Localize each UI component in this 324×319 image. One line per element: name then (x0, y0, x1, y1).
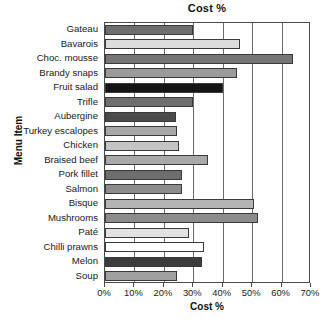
y-axis-tick-label: Choc. mousse (0, 53, 98, 63)
plot-area (104, 22, 310, 283)
bar-row (105, 255, 311, 269)
bar-row (105, 197, 311, 211)
x-axis-tick-label: 70% (290, 287, 324, 298)
y-axis-tick-label: Chicken (0, 140, 98, 150)
bar[interactable] (105, 141, 179, 151)
y-axis-tick-label: Bisque (0, 198, 98, 208)
bar-row (105, 81, 311, 95)
bar[interactable] (105, 83, 223, 93)
x-axis-title: Cost % (104, 301, 310, 312)
bar-row (105, 154, 311, 168)
bar-row (105, 125, 311, 139)
y-axis-tick-label: Braised beef (0, 155, 98, 165)
y-axis-tick-label: Trifle (0, 97, 98, 107)
bar-row (105, 38, 311, 52)
y-axis-tick-labels: GateauBavaroisChoc. mousseBrandy snapsFr… (0, 22, 101, 283)
bar-row (105, 23, 311, 37)
y-axis-tick-label: Bavarois (0, 39, 98, 49)
bar[interactable] (105, 184, 182, 194)
bar[interactable] (105, 199, 254, 209)
y-axis-tick-label: Paté (0, 227, 98, 237)
bar[interactable] (105, 170, 182, 180)
y-axis-tick-label: Salmon (0, 184, 98, 194)
y-axis-tick-label: Aubergine (0, 111, 98, 121)
y-axis-tick-label: Melon (0, 256, 98, 266)
bar-row (105, 52, 311, 66)
bar-row (105, 241, 311, 255)
chart-title: Cost % (104, 2, 310, 14)
y-axis-tick-label: Brandy snaps (0, 68, 98, 78)
bar[interactable] (105, 155, 208, 165)
bar[interactable] (105, 97, 193, 107)
bar[interactable] (105, 271, 177, 281)
y-axis-tick-label: Mushrooms (0, 213, 98, 223)
y-axis-tick-label: Fruit salad (0, 82, 98, 92)
y-axis-tick-label: Pork fillet (0, 169, 98, 179)
bar[interactable] (105, 242, 204, 252)
bar-row (105, 168, 311, 182)
bar[interactable] (105, 257, 202, 267)
bar-row (105, 270, 311, 284)
bar-row (105, 96, 311, 110)
bar-chart: Cost % Menu Item GateauBavaroisChoc. mou… (0, 0, 324, 319)
bar[interactable] (105, 54, 293, 64)
y-axis-tick-label: Gateau (0, 24, 98, 34)
y-axis-tick-label: Turkey escalopes (0, 126, 98, 136)
bar-row (105, 212, 311, 226)
bar-row (105, 183, 311, 197)
bar[interactable] (105, 228, 189, 238)
bar[interactable] (105, 213, 258, 223)
bar-row (105, 67, 311, 81)
bar-row (105, 110, 311, 124)
bar[interactable] (105, 126, 177, 136)
y-axis-tick-label: Chilli prawns (0, 242, 98, 252)
bar[interactable] (105, 68, 237, 78)
y-axis-tick-label: Soup (0, 271, 98, 281)
bar-row (105, 139, 311, 153)
bar[interactable] (105, 25, 193, 35)
bar-row (105, 226, 311, 240)
x-axis-tick-labels: 0%10%20%30%40%50%60%70% (104, 287, 310, 300)
bar[interactable] (105, 39, 240, 49)
bar[interactable] (105, 112, 176, 122)
